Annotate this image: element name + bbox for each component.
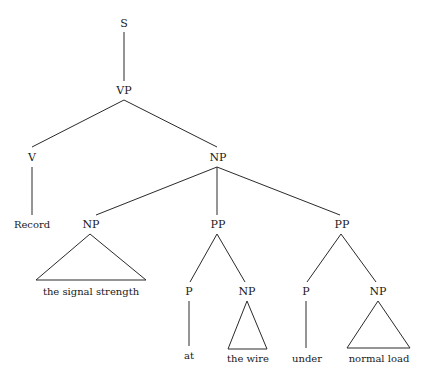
edge-np-np1 bbox=[96, 167, 217, 215]
parse-tree: S VP V NP NP PP PP P NP P NP Record the … bbox=[0, 0, 430, 383]
leaf-normal-load: normal load bbox=[349, 353, 410, 364]
leaf-signal-strength: the signal strength bbox=[43, 286, 140, 297]
leaf-record: Record bbox=[14, 219, 51, 230]
node-pp-2: PP bbox=[335, 218, 350, 231]
edge-pp1-np2 bbox=[217, 234, 245, 282]
leaf-the-wire: the wire bbox=[227, 353, 269, 364]
triangle-np3 bbox=[347, 301, 410, 348]
edge-np-pp2 bbox=[217, 167, 340, 215]
node-np-object: NP bbox=[209, 151, 227, 164]
leaf-under: under bbox=[292, 353, 322, 364]
node-v: V bbox=[27, 151, 37, 164]
node-p-1: P bbox=[185, 285, 193, 298]
node-np-3: NP bbox=[369, 285, 387, 298]
triangle-np2 bbox=[228, 301, 267, 349]
node-pp-1: PP bbox=[211, 218, 226, 231]
edge-vp-v bbox=[32, 100, 124, 147]
node-vp: VP bbox=[115, 84, 132, 97]
triangle-np1 bbox=[36, 234, 146, 280]
node-p-2: P bbox=[302, 285, 310, 298]
node-np-1: NP bbox=[82, 218, 100, 231]
tree-leaves: Record the signal strength at the wire u… bbox=[14, 219, 410, 364]
leaf-at: at bbox=[184, 350, 194, 361]
edge-vp-np bbox=[124, 100, 217, 147]
edge-pp2-p2 bbox=[307, 234, 341, 282]
edge-pp2-np3 bbox=[341, 234, 376, 282]
node-np-2: NP bbox=[238, 285, 256, 298]
edge-pp1-p1 bbox=[190, 234, 217, 282]
node-s: S bbox=[120, 17, 128, 30]
tree-nodes: S VP V NP NP PP PP P NP P NP bbox=[27, 17, 387, 298]
tree-edges bbox=[32, 32, 410, 349]
